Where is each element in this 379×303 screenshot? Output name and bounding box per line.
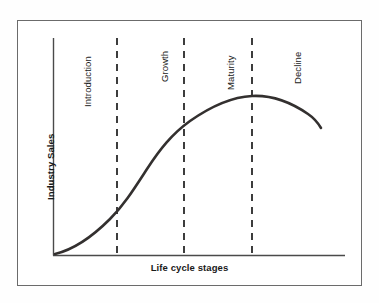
industry-sales-curve <box>55 96 321 254</box>
stage-label-growth: Growth <box>159 51 170 82</box>
y-axis-title: Industry Sales <box>45 134 56 200</box>
x-axis-title: Life cycle stages <box>0 262 379 273</box>
stage-label-decline: Decline <box>292 52 303 84</box>
stage-label-introduction: Introduction <box>82 56 93 107</box>
product-life-cycle-chart <box>0 0 379 303</box>
stage-label-maturity: Maturity <box>225 55 236 90</box>
